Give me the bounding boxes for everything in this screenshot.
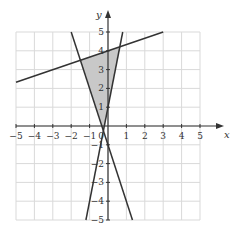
y-tick-label: 2 (98, 83, 104, 93)
y-tick-label: −5 (91, 215, 105, 225)
x-tick-label: 4 (179, 131, 185, 141)
y-tick-label: 3 (98, 65, 104, 75)
x-axis-label: x (224, 129, 230, 140)
x-axis-arrow-icon (216, 123, 224, 129)
y-tick-label: 1 (98, 102, 104, 112)
origin-label: 0 (98, 131, 104, 141)
y-tick-label: −1 (91, 140, 104, 150)
x-tick-label: 1 (124, 131, 130, 141)
y-tick-label: 5 (98, 27, 104, 37)
y-tick-label: −2 (91, 159, 104, 169)
x-tick-label: 2 (142, 131, 148, 141)
inequality-graph: −5−4−3−2−112345−5−4−3−2−1123450 x y (0, 0, 234, 231)
y-axis-arrow-icon (105, 10, 111, 18)
y-tick-label: −4 (91, 196, 105, 206)
y-tick-label: 4 (98, 46, 104, 56)
x-tick-label: 3 (160, 131, 166, 141)
x-tick-label: −4 (28, 131, 42, 141)
x-tick-label: −2 (65, 131, 78, 141)
x-tick-label: 5 (197, 131, 203, 141)
axes (16, 10, 224, 220)
y-tick-label: −3 (91, 177, 105, 187)
x-tick-label: −3 (46, 131, 60, 141)
x-tick-label: −5 (9, 131, 23, 141)
y-axis-label: y (95, 9, 102, 20)
